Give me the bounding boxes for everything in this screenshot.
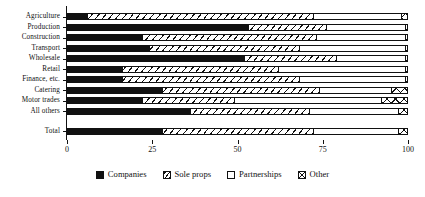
bar-segment-partnerships — [279, 67, 405, 72]
bar-segment-companies — [68, 14, 88, 19]
bar-segment-other — [406, 25, 408, 30]
bar-all-others — [67, 108, 408, 115]
bar-segment-soleprops — [143, 35, 317, 40]
bar-segment-companies — [68, 56, 245, 61]
category-label-all-others: All others — [0, 108, 60, 115]
bar-segment-companies — [68, 109, 191, 114]
bar-segment-soleprops — [88, 14, 313, 19]
x-tick-label: 100 — [402, 145, 414, 154]
bar-segment-soleprops — [143, 98, 235, 103]
legend-swatch-soleprops-icon — [163, 171, 171, 179]
bar-segment-partnerships — [300, 77, 406, 82]
legend-label: Partnerships — [239, 170, 282, 179]
bar-segment-partnerships — [314, 14, 403, 19]
bar-production — [67, 24, 408, 31]
bar-segment-other — [392, 88, 408, 93]
bar-segment-other — [406, 35, 408, 40]
category-axis-labels: AgricultureProductionConstructionTranspo… — [0, 0, 60, 150]
legend-label: Companies — [108, 170, 147, 179]
category-label-wholesale: Wholesale — [0, 55, 60, 62]
bar-segment-soleprops — [163, 88, 320, 93]
bar-total — [67, 128, 408, 135]
plot-area: 0255075100 — [67, 6, 408, 140]
x-tick — [408, 140, 409, 144]
bar-catering — [67, 87, 408, 94]
category-label-transport: Transport — [0, 45, 60, 52]
bar-segment-companies — [68, 77, 123, 82]
bar-retail — [67, 66, 408, 73]
bar-segment-companies — [68, 46, 150, 51]
bar-segment-other — [382, 98, 408, 103]
bar-segment-soleprops — [123, 77, 300, 82]
bar-segment-other — [406, 67, 408, 72]
bar-segment-companies — [68, 67, 123, 72]
bar-segment-partnerships — [235, 98, 382, 103]
bar-segment-companies — [68, 88, 163, 93]
x-tick — [323, 140, 324, 144]
x-tick-label: 75 — [319, 145, 327, 154]
category-label-retail: Retail — [0, 66, 60, 73]
legend-item-soleprops: Sole props — [163, 170, 212, 179]
category-label-finance-etc: Finance, etc. — [0, 76, 60, 83]
bar-segment-other — [402, 14, 408, 19]
legend-item-partnerships: Partnerships — [227, 170, 282, 179]
bar-segment-soleprops — [123, 67, 280, 72]
bar-segment-partnerships — [314, 129, 399, 134]
legend-item-other: Other — [298, 170, 330, 179]
category-label-catering: Catering — [0, 87, 60, 94]
bar-segment-companies — [68, 35, 143, 40]
legend-swatch-other-icon — [298, 171, 306, 179]
bar-segment-partnerships — [337, 56, 405, 61]
bar-segment-other — [406, 77, 408, 82]
legend-swatch-partnerships-icon — [227, 171, 235, 179]
bar-transport — [67, 45, 408, 52]
bar-segment-companies — [68, 25, 249, 30]
bar-motor-trades — [67, 97, 408, 104]
bar-wholesale — [67, 55, 408, 62]
bar-segment-partnerships — [300, 46, 406, 51]
bar-segment-companies — [68, 98, 143, 103]
category-label-production: Production — [0, 24, 60, 31]
bar-agriculture — [67, 13, 408, 20]
category-label-construction: Construction — [0, 34, 60, 41]
bar-segment-partnerships — [320, 88, 392, 93]
category-label-total: Total — [0, 128, 60, 135]
bar-segment-partnerships — [327, 25, 405, 30]
bar-construction — [67, 34, 408, 41]
bar-segment-soleprops — [245, 56, 337, 61]
category-label-agriculture: Agriculture — [0, 13, 60, 20]
x-tick — [152, 140, 153, 144]
bar-segment-soleprops — [163, 129, 313, 134]
legend-swatch-companies-icon — [96, 171, 104, 179]
legend-label: Other — [310, 170, 330, 179]
bar-segment-soleprops — [249, 25, 327, 30]
bar-finance-etc — [67, 76, 408, 83]
bar-segment-other — [406, 46, 408, 51]
bar-segment-partnerships — [317, 35, 406, 40]
legend-label: Sole props — [175, 170, 212, 179]
x-tick-label: 50 — [234, 145, 242, 154]
x-tick-label: 0 — [65, 145, 69, 154]
x-tick-label: 25 — [148, 145, 156, 154]
x-tick — [67, 140, 68, 144]
bar-segment-soleprops — [191, 109, 310, 114]
bar-segment-partnerships — [310, 109, 399, 114]
bar-segment-other — [399, 129, 408, 134]
category-label-motor-trades: Motor trades — [0, 97, 60, 104]
x-tick — [238, 140, 239, 144]
legend-item-companies: Companies — [96, 170, 147, 179]
bar-segment-other — [406, 56, 408, 61]
bar-segment-other — [399, 109, 408, 114]
chart-legend: CompaniesSole propsPartnershipsOther — [0, 170, 425, 179]
bar-segment-companies — [68, 129, 163, 134]
stacked-bar-chart: AgricultureProductionConstructionTranspo… — [0, 0, 425, 197]
bar-segment-soleprops — [150, 46, 300, 51]
